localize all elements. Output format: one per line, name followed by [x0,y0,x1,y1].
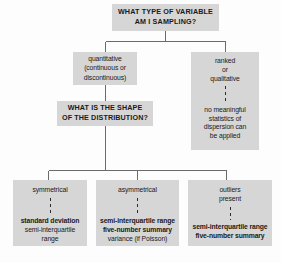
dashed-arrow-ranked [225,86,226,102]
outliers-condition-line-2: present [219,195,241,203]
outliers-result-line-2: five-number summary [195,232,264,240]
asymmetrical-result-line-3: variance (if Poisson) [108,235,167,243]
symmetrical-result-line-2: semi-interquartile [25,226,75,234]
quantitative-line-2: (continuous or [84,64,126,72]
asymmetrical-condition: asymmetrical [118,186,157,194]
shape-question-line-2: OF THE DISTRIBUTION? [62,114,148,122]
symmetrical-result-line-1: standard deviation [21,217,80,225]
root-question-box: WHAT TYPE OF VARIABLE AM I SAMPLING? [112,4,219,31]
ranked-result-line-3: dispersion can [204,123,246,131]
outliers-result-line-1: semi-interquartile range [192,223,267,231]
ranked-qualitative-box: ranked or qualitative no meaningful stat… [191,52,259,150]
dashed-arrow-outliers [230,207,231,220]
symmetrical-condition: symmetrical [32,186,67,194]
symmetrical-result-line-3: range [42,235,59,243]
root-question-line-2: AM I SAMPLING? [135,18,197,26]
dashed-arrow-asymmetrical [137,198,138,214]
quantitative-box: quantitative (continuous or discontinuou… [73,52,137,85]
outliers-condition-line-1: outliers [219,186,240,194]
asymmetrical-result-line-1: semi-interquartile range [100,217,175,225]
shape-question-box: WHAT IS THE SHAPE OF THE DISTRIBUTION? [57,101,153,126]
symmetrical-box: symmetrical standard deviation semi-inte… [13,180,87,246]
quantitative-line-3: discontinuous) [84,74,126,82]
ranked-line-2: or [222,66,228,74]
ranked-result-line-2: statistics of [209,115,241,123]
asymmetrical-result-line-2: five-number summary [103,226,172,234]
ranked-result-line-1: no meaningful [204,106,245,114]
ranked-result-line-4: be applied [210,132,240,140]
outliers-box: outliers present semi-interquartile rang… [188,180,272,246]
dashed-arrow-symmetrical [50,198,51,214]
quantitative-line-1: quantitative [88,55,122,63]
shape-question-line-1: WHAT IS THE SHAPE [68,104,143,112]
ranked-line-3: qualitative [210,75,240,83]
flowchart-canvas: WHAT TYPE OF VARIABLE AM I SAMPLING? qua… [0,0,281,263]
ranked-line-1: ranked [215,57,235,65]
asymmetrical-box: asymmetrical semi-interquartile range fi… [96,180,179,246]
root-question-line-1: WHAT TYPE OF VARIABLE [118,8,213,16]
